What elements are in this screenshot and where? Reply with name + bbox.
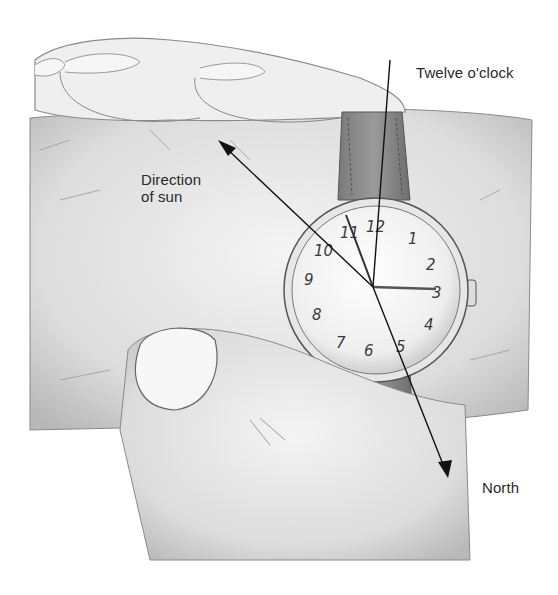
svg-text:8: 8 [312, 306, 322, 324]
sun-label-line2: of sun [141, 188, 201, 205]
svg-text:2: 2 [426, 256, 436, 274]
svg-text:3: 3 [432, 284, 442, 302]
watch-compass-illustration: 12 1 2 3 4 5 6 7 8 9 10 11 [0, 0, 558, 595]
svg-text:5: 5 [396, 338, 406, 356]
svg-text:7: 7 [336, 334, 346, 352]
twelve-oclock-label: Twelve o'clock [416, 64, 514, 81]
svg-text:9: 9 [304, 271, 314, 289]
svg-text:6: 6 [364, 342, 374, 360]
svg-text:4: 4 [424, 316, 434, 334]
svg-text:10: 10 [314, 242, 333, 260]
svg-text:12: 12 [366, 218, 385, 236]
sun-label-line1: Direction [141, 171, 201, 188]
north-label: North [482, 479, 519, 496]
fingers [35, 38, 405, 122]
direction-of-sun-label: Direction of sun [141, 171, 201, 205]
svg-text:1: 1 [408, 230, 418, 248]
